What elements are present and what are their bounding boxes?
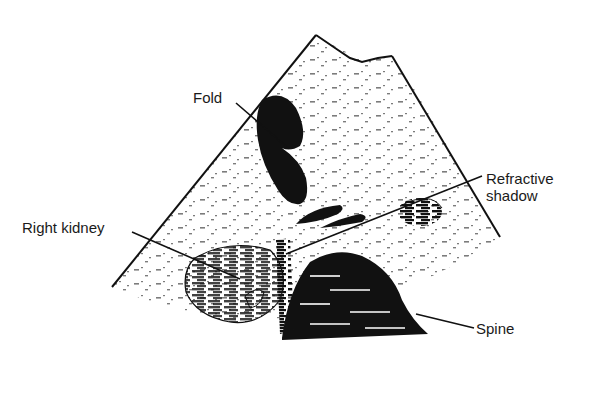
right-echo-cluster <box>398 198 442 226</box>
label-spine: Spine <box>476 320 514 337</box>
ultrasound-diagram: Fold Refractive shadow Right kidney Spin… <box>0 0 610 409</box>
diagram-drawing <box>0 0 610 409</box>
label-right-kidney: Right kidney <box>22 219 105 236</box>
spine-leader <box>416 314 474 328</box>
label-fold: Fold <box>193 89 222 106</box>
label-refractive-shadow: Refractive shadow <box>486 170 554 204</box>
